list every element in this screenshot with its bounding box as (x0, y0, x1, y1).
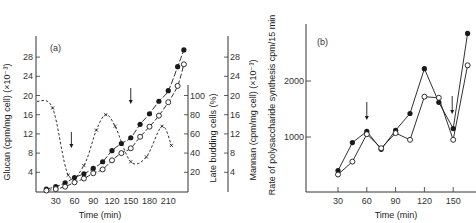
y-tick-label: 20 (23, 91, 33, 101)
y-right2-tick-label: 12 (230, 129, 240, 139)
open-circle-marker (119, 151, 124, 156)
y-tick-label: 4 (28, 167, 33, 177)
filled-circle-marker (138, 122, 143, 127)
open-circle-marker (379, 146, 384, 151)
y-right2-tick-label: 16 (230, 110, 240, 120)
filled-circle-marker (166, 88, 171, 93)
filled-circle-marker (109, 148, 114, 153)
filled-circle-marker (147, 111, 152, 116)
panel-b-label: (b) (317, 37, 328, 47)
x-tick-label: 90 (88, 196, 98, 206)
open-circle-marker (408, 137, 413, 142)
open-circle-marker (110, 158, 115, 163)
x-tick-label: 60 (69, 196, 79, 206)
x-tick-label: 210 (161, 196, 176, 206)
open-circle-marker (166, 100, 171, 105)
y-right2-tick-label: 4 (230, 167, 235, 177)
y-tick-label: 2000 (284, 76, 304, 86)
open-circle-marker (138, 134, 143, 139)
y-tick-label: 12 (23, 129, 33, 139)
cross-marker (160, 125, 163, 128)
cross-marker (82, 164, 85, 167)
open-circle-marker (465, 63, 470, 68)
open-circle-marker (128, 146, 133, 151)
open-circle-marker (100, 167, 105, 172)
open-circle-marker (393, 131, 398, 136)
arrow-down-icon (450, 96, 454, 114)
panel-a-right2-y-axis-label: Mannan (cpm/mg cell) (×10⁻³) (248, 60, 258, 181)
y-right2-tick-label: 8 (230, 148, 235, 158)
x-tick-label: 180 (142, 196, 157, 206)
y-right1-tick-label: 20 (190, 167, 200, 177)
filled-circle-marker (156, 99, 161, 104)
x-tick-label: 90 (391, 196, 401, 206)
open-circle-marker (91, 171, 96, 176)
filled-circle-marker (91, 166, 96, 171)
arrow-down-icon (69, 132, 73, 148)
open-circle-marker (451, 137, 456, 142)
open-circle-marker (350, 159, 355, 164)
x-tick-label: 150 (123, 196, 138, 206)
figure: 4812162024282040608010048121620242830609… (0, 0, 476, 223)
cross-marker (145, 155, 148, 158)
filled-circle-marker (422, 66, 427, 71)
filled-circle-marker (350, 140, 355, 145)
filled-circle-marker (128, 135, 133, 140)
y-tick-label: 1000 (284, 132, 304, 142)
cross-marker (114, 125, 117, 128)
y-right1-tick-label: 40 (190, 148, 200, 158)
series-line-0 (338, 33, 468, 170)
filled-circle-marker (465, 31, 470, 36)
x-tick-label: 150 (446, 196, 461, 206)
open-circle-marker (63, 184, 68, 189)
y-right1-tick-label: 60 (190, 129, 200, 139)
filled-circle-marker (407, 111, 412, 116)
filled-circle-marker (100, 159, 105, 164)
x-tick-label: 120 (417, 196, 432, 206)
open-circle-marker (422, 94, 427, 99)
open-circle-marker (147, 124, 152, 129)
open-circle-marker (336, 172, 341, 177)
panel-b-chart: 10002000306090120150 (284, 24, 476, 206)
filled-circle-marker (81, 171, 86, 176)
filled-circle-marker (181, 47, 186, 52)
y-tick-label: 16 (23, 110, 33, 120)
panel-b-y-axis-label: Rate of polysaccharide synthesis cpm/15 … (267, 15, 277, 196)
cross-marker (67, 174, 70, 177)
open-circle-marker (44, 188, 49, 193)
open-circle-marker (175, 83, 180, 88)
arrow-down-icon (129, 88, 133, 104)
open-circle-marker (156, 113, 161, 118)
cross-marker (129, 160, 132, 163)
open-circle-marker (53, 187, 58, 192)
panel-b-x-axis-label: Time (min) (375, 210, 418, 220)
filled-circle-marker (175, 64, 180, 69)
y-tick-label: 24 (23, 71, 33, 81)
x-tick-label: 30 (51, 196, 61, 206)
filled-circle-marker (72, 175, 77, 180)
open-circle-marker (181, 62, 186, 67)
open-circle-marker (81, 176, 86, 181)
y-right1-tick-label: 100 (190, 91, 205, 101)
series-line-0 (46, 50, 184, 189)
y-right2-tick-label: 20 (230, 91, 240, 101)
panel-a-right1-y-axis-label: Late budding cells (%) (208, 93, 218, 182)
panel-a-label: (a) (50, 43, 61, 53)
y-right1-tick-label: 80 (190, 110, 200, 120)
x-tick-label: 30 (333, 196, 343, 206)
filled-circle-marker (451, 126, 456, 131)
panel-a-x-axis-label: Time (min) (79, 210, 122, 220)
x-tick-label: 120 (104, 196, 119, 206)
open-circle-marker (72, 180, 77, 185)
open-circle-marker (436, 95, 441, 100)
y-right2-tick-label: 28 (230, 52, 240, 62)
y-right2-tick-label: 24 (230, 71, 240, 81)
panel-a-left-y-axis-label: Glucan (cpm/mg cell) (×10⁻³) (2, 64, 12, 181)
y-tick-label: 28 (23, 52, 33, 62)
x-tick-label: 60 (362, 196, 372, 206)
arrow-down-icon (365, 102, 369, 120)
y-tick-label: 8 (28, 148, 33, 158)
open-circle-marker (364, 132, 369, 137)
